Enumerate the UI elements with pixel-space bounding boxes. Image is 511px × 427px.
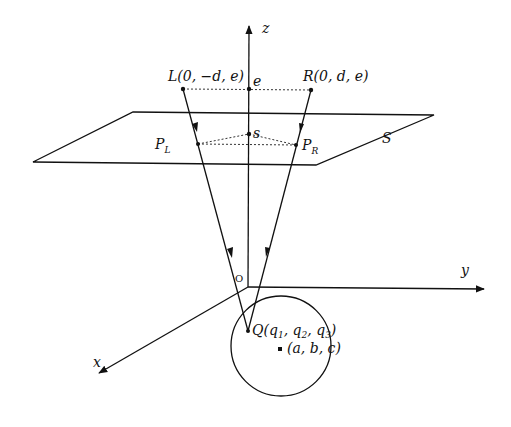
plane-s-label: S [382, 130, 392, 146]
point-pl [196, 142, 200, 146]
sphere-center-label: (a, b, c) [287, 340, 341, 356]
z-axis [248, 26, 249, 287]
point-r-label: R(0, d, e) [302, 68, 368, 84]
z-axis-label: z [261, 20, 270, 36]
x-axis [99, 287, 248, 373]
y-axis-label: y [460, 262, 470, 278]
point-e [247, 87, 251, 91]
x-axis-label: x [93, 354, 101, 370]
pl-s-line [198, 134, 249, 144]
origin-label: O [235, 273, 243, 284]
ray-left [183, 89, 248, 331]
point-pr-label: PR [301, 137, 318, 156]
point-s [247, 132, 251, 136]
point-l [181, 87, 185, 91]
point-pr [294, 143, 298, 147]
point-r [309, 88, 313, 92]
point-s-label: s [253, 125, 260, 141]
point-l-label: L(0, −d, e) [167, 68, 244, 84]
point-q-label: Q(q1, q2, q3) [252, 322, 336, 340]
point-q [246, 329, 250, 333]
pl-pr-line [198, 144, 296, 145]
image-plane-s [33, 112, 434, 165]
y-axis [248, 287, 484, 289]
point-e-label: e [253, 73, 261, 89]
stereo-projection-diagram: z y x O L(0, −d, e) R(0, d, e) e s PL PR… [0, 0, 511, 427]
point-center [278, 347, 282, 351]
point-pl-label: PL [154, 136, 170, 155]
